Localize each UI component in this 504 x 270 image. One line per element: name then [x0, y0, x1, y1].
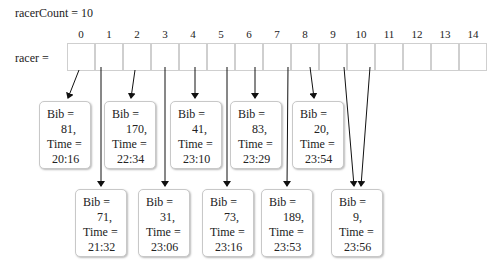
- arrow-9: [344, 67, 354, 186]
- arrow-10: [361, 67, 370, 186]
- arrow-8: [310, 67, 314, 98]
- arrow-7: [287, 67, 288, 186]
- pointer-arrows: [0, 0, 504, 270]
- arrow-2: [131, 70, 135, 98]
- arrow-0: [68, 70, 79, 98]
